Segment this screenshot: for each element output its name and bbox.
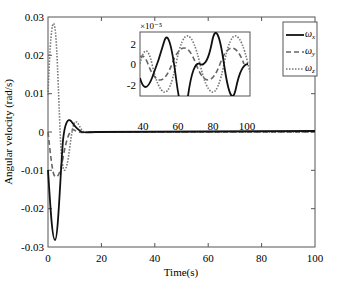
svg-text:0: 0: [45, 252, 51, 264]
svg-text:40: 40: [149, 252, 161, 264]
svg-text:40: 40: [138, 120, 150, 132]
svg-text:0: 0: [131, 58, 137, 70]
chart: 0 20 40 60 80 100 0.03 0.02 0.01 0 -0.01…: [0, 0, 352, 284]
svg-text:100: 100: [239, 120, 256, 132]
svg-text:0.02: 0.02: [25, 49, 44, 61]
svg-text:100: 100: [307, 252, 324, 264]
svg-text:0.03: 0.03: [25, 11, 45, 23]
svg-text:2: 2: [131, 38, 137, 50]
inset-plot: 2 0 -2 ×10⁻⁵ 40 60 80 100: [127, 21, 260, 132]
svg-text:20: 20: [96, 252, 108, 264]
x-tick-labels: 0 20 40 60 80 100: [45, 252, 324, 264]
svg-text:0: 0: [39, 126, 45, 138]
svg-text:80: 80: [256, 252, 268, 264]
x-axis-label: Time(s): [164, 266, 199, 279]
svg-text:-0.03: -0.03: [21, 241, 44, 253]
svg-text:-0.01: -0.01: [21, 164, 44, 176]
y-tick-labels: 0.03 0.02 0.01 0 -0.01 -0.02 -0.03: [21, 11, 44, 253]
svg-text:60: 60: [173, 120, 185, 132]
y-axis-label: Angular velocity (rad/s): [2, 79, 15, 185]
svg-text:80: 80: [208, 120, 220, 132]
svg-text:0.01: 0.01: [25, 87, 44, 99]
svg-text:-2: -2: [127, 79, 136, 91]
legend: ωx ωy ωz: [283, 22, 317, 76]
svg-text:60: 60: [203, 252, 215, 264]
svg-text:-0.02: -0.02: [21, 202, 44, 214]
inset-scale-label: ×10⁻⁵: [140, 21, 162, 31]
